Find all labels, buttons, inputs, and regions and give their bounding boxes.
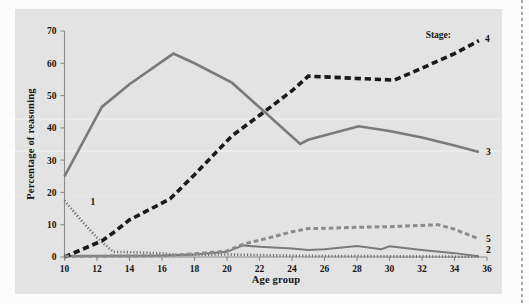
y-tick-label: 50 <box>47 91 57 101</box>
x-tick-label: 26 <box>320 264 330 274</box>
x-tick-label: 28 <box>352 264 362 274</box>
stage-legend-caption: Stage: <box>426 30 451 40</box>
y-tick-label: 20 <box>47 188 57 198</box>
x-tick-label: 32 <box>417 264 427 274</box>
series-line-stage-5 <box>65 225 479 257</box>
y-tick-label: 0 <box>52 252 57 262</box>
y-axis-ticks <box>61 31 65 257</box>
x-tick-label: 34 <box>450 264 460 274</box>
series-label-stage-1: 1 <box>91 197 96 207</box>
x-axis-title: Age group <box>252 274 301 285</box>
y-tick-label: 30 <box>47 156 57 166</box>
x-tick-label: 18 <box>190 264 200 274</box>
series-end-labels: 12345 <box>91 34 491 256</box>
series-label-stage-3: 3 <box>486 147 491 157</box>
y-tick-label: 10 <box>47 220 57 230</box>
x-tick-label: 12 <box>92 264 102 274</box>
x-tick-label: 22 <box>255 264 265 274</box>
series-label-stage-5: 5 <box>486 234 491 244</box>
y-tick-label: 60 <box>47 59 57 69</box>
x-axis-ticks <box>65 257 488 261</box>
x-tick-label: 20 <box>222 264 232 274</box>
x-tick-label: 30 <box>385 264 395 274</box>
x-tick-label: 14 <box>125 264 135 274</box>
x-tick-label: 16 <box>157 264 167 274</box>
x-tick-label: 10 <box>60 264 70 274</box>
x-tick-label: 36 <box>482 264 492 274</box>
x-tick-label: 24 <box>287 264 297 274</box>
figure-root: 010203040506070 101214161820222426283032… <box>0 0 529 304</box>
y-axis-tick-labels: 010203040506070 <box>47 26 57 262</box>
y-tick-label: 40 <box>47 123 57 133</box>
data-series-group <box>65 41 479 257</box>
y-axis-title: Percentage of reasoning <box>25 88 36 200</box>
y-tick-label: 70 <box>47 26 57 36</box>
x-axis-tick-labels: 1012141618202224262830323436 <box>60 264 492 274</box>
series-label-stage-4: 4 <box>485 34 490 44</box>
series-label-stage-2: 2 <box>486 245 491 255</box>
line-chart-plot: 010203040506070 101214161820222426283032… <box>0 0 529 304</box>
